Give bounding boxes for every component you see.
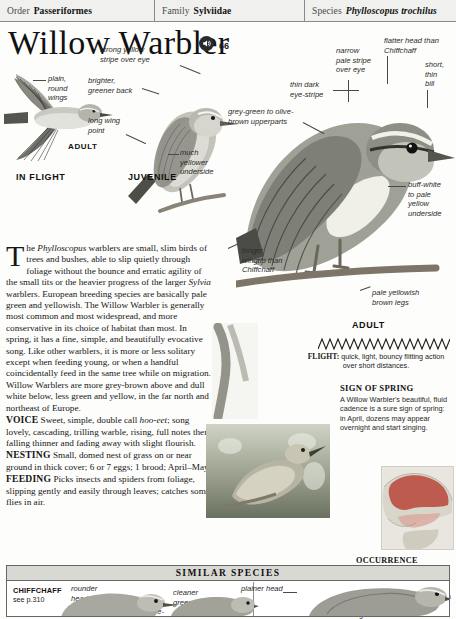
- sign-of-spring-heading: SIGN OF SPRING: [340, 383, 452, 393]
- sign-of-spring-text: A Willow Warbler's beautiful, fluid cade…: [340, 395, 452, 433]
- family-label: Family: [162, 6, 190, 16]
- callout-longer-wingtip: longer wingtip than Chiffchaff: [242, 246, 283, 275]
- sign-of-spring-box: SIGN OF SPRING A Willow Warbler's beauti…: [340, 383, 452, 433]
- zigzag-sonogram-icon: [318, 338, 450, 350]
- bird-juvenile-illustration: [120, 78, 240, 213]
- callout-thin-dark-eye-stripe: thin dark eye-stripe: [290, 80, 323, 99]
- genus-sylvia: Sylvia: [189, 277, 211, 287]
- in-flight-adult-label: ADULT: [68, 142, 98, 151]
- taxonomy-order: Order Passeriformes: [0, 0, 155, 21]
- intro-paragraph: The Phylloscopus warblers are small, sli…: [6, 243, 211, 414]
- flight-label: FLIGHT:: [308, 352, 340, 361]
- callout-plain-round-wings: plain, round wings: [48, 74, 67, 103]
- photo-warbler-habitat: [212, 323, 258, 419]
- leader-line-plainer-head: [283, 592, 297, 593]
- flight-text: quick, light, bouncy flitting action ove…: [339, 352, 444, 370]
- similar-species-name: CHIFFCHAFF: [13, 586, 62, 595]
- callout-short-thin-bill: short, thin bill: [425, 60, 444, 89]
- speaker-icon[interactable]: [199, 36, 214, 51]
- callout-buff-white-underside: buff-white to pale yellow underside: [408, 180, 441, 218]
- similar-species-panel: SIMILAR SPECIES CHIFFCHAFF see p.310 rou…: [6, 565, 450, 617]
- taxonomy-family: Family Sylviidae: [155, 0, 305, 21]
- leader-line-yellow-stripe: [180, 65, 201, 74]
- callout-flatter-head: flatter head than Chiffchaff: [384, 36, 439, 55]
- field-guide-page: Order Passeriformes Family Sylviidae Spe…: [0, 0, 456, 619]
- feeding-label: FEEDING: [6, 473, 51, 484]
- occurrence-heading: OCCURRENCE: [356, 556, 454, 565]
- callout-strong-yellow-stripe: strong yellow stripe over eye: [100, 45, 150, 64]
- nesting-paragraph: NESTING Small, domed nest of grass on or…: [6, 449, 211, 473]
- leader-line-underside: [168, 154, 179, 155]
- callout-narrow-pale-stripe: narrow pale stripe over eye: [336, 46, 371, 75]
- callout-pale-yellowish-brown-legs: pale yellowish brown legs: [372, 288, 419, 307]
- distribution-map: [381, 466, 454, 550]
- leader-line-bill: [427, 90, 428, 108]
- bird-chiffchaff-illustration-2: [169, 594, 259, 617]
- genus-phylloscopus: Phylloscopus: [37, 243, 86, 253]
- order-label: Order: [7, 6, 30, 16]
- in-flight-label: IN FLIGHT: [16, 172, 65, 182]
- similar-species-heading: SIMILAR SPECIES: [7, 566, 449, 581]
- voice-text-a: Sweet, simple, double call: [38, 415, 139, 425]
- flight-caption: FLIGHT: quick, light, bouncy flitting ac…: [300, 352, 452, 370]
- audio-track-number: 66: [219, 41, 229, 51]
- species-label: Species: [312, 6, 342, 16]
- voice-paragraph: VOICE Sweet, simple, double call hoo-eet…: [6, 414, 211, 449]
- leader-line-pale-stripe: [348, 80, 349, 102]
- adult-label: ADULT: [352, 320, 385, 330]
- feeding-paragraph: FEEDING Picks insects and spiders from f…: [6, 473, 211, 508]
- leader-line-flatter-head: [387, 56, 388, 84]
- callout-long-wing-point: long wing point: [88, 116, 120, 135]
- callout-much-yellower-underside: much yellower underside: [180, 148, 213, 177]
- bird-chiffchaff-illustration: [59, 592, 179, 617]
- order-value: Passeriformes: [34, 6, 92, 16]
- leader-line-buff-underside: [388, 186, 406, 187]
- taxonomy-species: Species Phylloscopus trochilus: [305, 0, 456, 21]
- photo-warbler-singing: [206, 424, 330, 518]
- callout-brighter-greener-back: brighter, greener back: [88, 76, 132, 95]
- callout-grey-green-upperparts: grey-green to olive- brown upperparts: [228, 107, 293, 126]
- species-value: Phylloscopus trochilus: [346, 6, 437, 16]
- leader-line-wings: [33, 80, 46, 81]
- callout-plainer-head: plainer head: [241, 584, 283, 594]
- family-value: Sylviidae: [194, 6, 232, 16]
- intro-text-a: he: [26, 243, 37, 253]
- juvenile-label: JUVENILE: [128, 172, 177, 182]
- similar-species-page-ref[interactable]: see p.310: [13, 595, 45, 604]
- intro-text-c: warblers. European breeding species are …: [6, 289, 211, 413]
- leader-line-eye-stripe: [333, 90, 359, 91]
- taxonomy-bar: Order Passeriformes Family Sylviidae Spe…: [0, 0, 456, 22]
- drop-cap: T: [6, 243, 26, 268]
- nesting-label: NESTING: [6, 449, 51, 460]
- voice-label: VOICE: [6, 414, 38, 425]
- bird-similar-right-illustration: [307, 586, 450, 617]
- species-description: The Phylloscopus warblers are small, sli…: [6, 243, 211, 508]
- voice-call-italic: hoo-eet: [140, 415, 168, 425]
